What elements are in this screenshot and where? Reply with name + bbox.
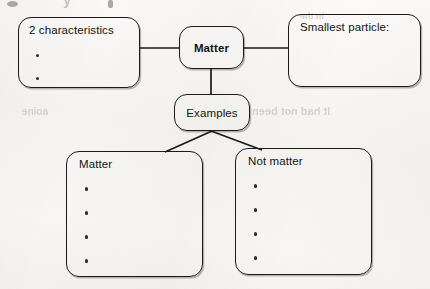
bullet-item[interactable]	[85, 249, 193, 273]
node-matter-list-label: Matter	[79, 158, 112, 170]
node-not-matter-list[interactable]: Not matter	[235, 148, 372, 275]
node-matter-list[interactable]: Matter	[66, 151, 203, 277]
node-matter[interactable]: Matter	[179, 26, 244, 69]
node-smallest-particle[interactable]: Smallest particle:	[288, 14, 421, 87]
bullet-item[interactable]	[254, 174, 362, 198]
node-matter-list-bullets	[85, 177, 193, 273]
worksheet-page: y It had not been aoine in the 2 charact…	[0, 0, 430, 289]
node-characteristics[interactable]: 2 characteristics	[18, 17, 140, 88]
bullet-item[interactable]	[36, 67, 132, 90]
node-not-matter-list-bullets	[254, 174, 362, 270]
node-characteristics-label: 2 characteristics	[29, 24, 114, 36]
bullet-item[interactable]	[85, 201, 193, 225]
bullet-item[interactable]	[85, 177, 193, 201]
node-characteristics-bullets	[36, 44, 132, 90]
bullet-item[interactable]	[254, 222, 362, 246]
bullet-item[interactable]	[254, 198, 362, 222]
node-examples[interactable]: Examples	[174, 94, 250, 131]
node-matter-label: Matter	[194, 42, 229, 54]
connector-examples-to-matter-list	[165, 131, 212, 152]
bullet-item[interactable]	[254, 246, 362, 270]
node-not-matter-list-label: Not matter	[248, 155, 303, 167]
bullet-item[interactable]	[85, 225, 193, 249]
node-examples-label: Examples	[186, 107, 237, 119]
node-smallest-particle-label: Smallest particle:	[300, 21, 389, 33]
bullet-item[interactable]	[36, 44, 132, 67]
